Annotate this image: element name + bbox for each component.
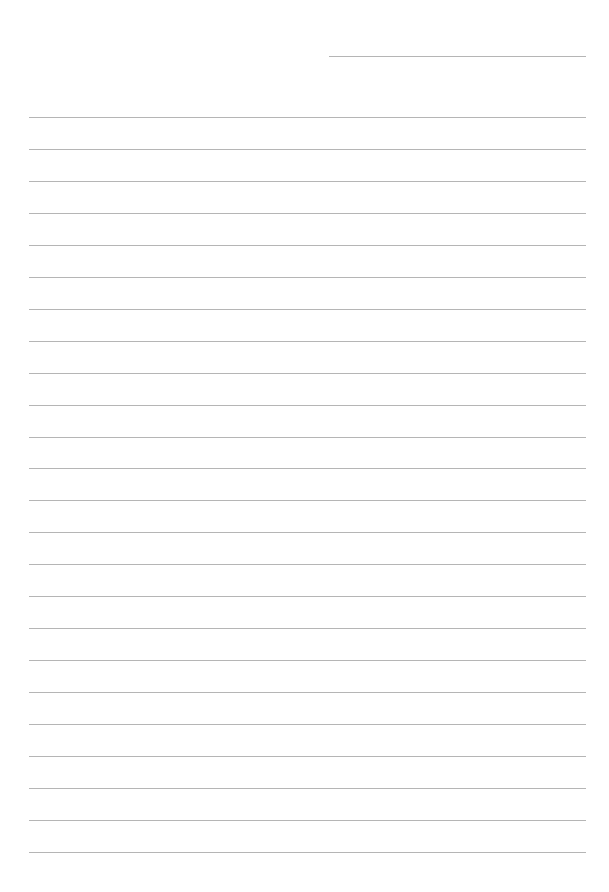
ruled-line: [29, 277, 586, 278]
lined-paper-page: [0, 0, 609, 892]
ruled-line: [29, 405, 586, 406]
ruled-line: [29, 309, 586, 310]
ruled-line: [29, 692, 586, 693]
ruled-line: [29, 437, 586, 438]
ruled-line: [29, 245, 586, 246]
ruled-line: [29, 724, 586, 725]
header-write-line: [329, 56, 586, 57]
ruled-line: [29, 181, 586, 182]
ruled-line: [29, 564, 586, 565]
ruled-line: [29, 788, 586, 789]
ruled-line: [29, 660, 586, 661]
ruled-line: [29, 373, 586, 374]
ruled-line: [29, 341, 586, 342]
ruled-line: [29, 756, 586, 757]
ruled-line: [29, 468, 586, 469]
ruled-line: [29, 117, 586, 118]
ruled-line: [29, 628, 586, 629]
ruled-line: [29, 213, 586, 214]
ruled-line: [29, 500, 586, 501]
ruled-line: [29, 820, 586, 821]
ruled-line: [29, 532, 586, 533]
ruled-line: [29, 596, 586, 597]
ruled-line: [29, 852, 586, 853]
ruled-line: [29, 149, 586, 150]
